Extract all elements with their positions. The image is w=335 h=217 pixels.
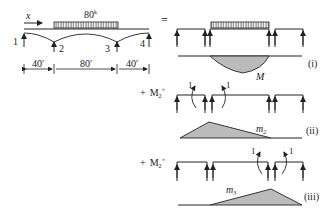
case-ii-tag: (ii) xyxy=(306,125,318,137)
case-iii-tag: (iii) xyxy=(304,191,319,203)
support-4-label: 4 xyxy=(140,38,145,49)
load-label: 80k xyxy=(84,9,97,20)
case-ii-multiplier: +M2× xyxy=(140,86,166,99)
unit-moment-arrow-right xyxy=(282,152,287,174)
unit-label: 1 xyxy=(289,146,294,156)
unit-label: 1 xyxy=(251,146,256,156)
distributed-load xyxy=(54,22,118,28)
support-1-label: 1 xyxy=(13,36,18,47)
support-2-label: 2 xyxy=(59,43,64,54)
span-1-label: 40′ xyxy=(32,58,44,69)
case-ii: +M2× 1 1 m2 (ii) xyxy=(140,80,318,138)
x-axis-label: x xyxy=(25,10,31,21)
deflected-shape xyxy=(24,33,149,42)
unit-moment-arrow-right xyxy=(222,86,226,108)
moment-diagram-m3 xyxy=(210,189,302,205)
case-iii: +M2× 1 1 m3 (iii) xyxy=(140,146,319,205)
moment-label-M: M xyxy=(255,71,265,82)
span-2-label: 80′ xyxy=(80,58,92,69)
main-beam: x 80k 1 2 3 4 40′ 80′ 40′ xyxy=(13,9,149,74)
case-iii-multiplier: +M2× xyxy=(140,156,166,169)
structural-diagram: x 80k 1 2 3 4 40′ 80′ 40′ = xyxy=(0,0,335,217)
unit-moment-arrow-left xyxy=(257,152,262,174)
unit-label: 1 xyxy=(226,80,231,90)
moment-label-m3: m3 xyxy=(226,184,236,196)
case-i: M (i) xyxy=(177,22,317,82)
moment-label-m2: m2 xyxy=(256,123,266,135)
equals-sign: = xyxy=(161,13,168,27)
support-3-label: 3 xyxy=(105,43,110,54)
unit-label: 1 xyxy=(188,80,193,90)
span-3-label: 40′ xyxy=(126,58,138,69)
case-i-tag: (i) xyxy=(308,58,317,70)
